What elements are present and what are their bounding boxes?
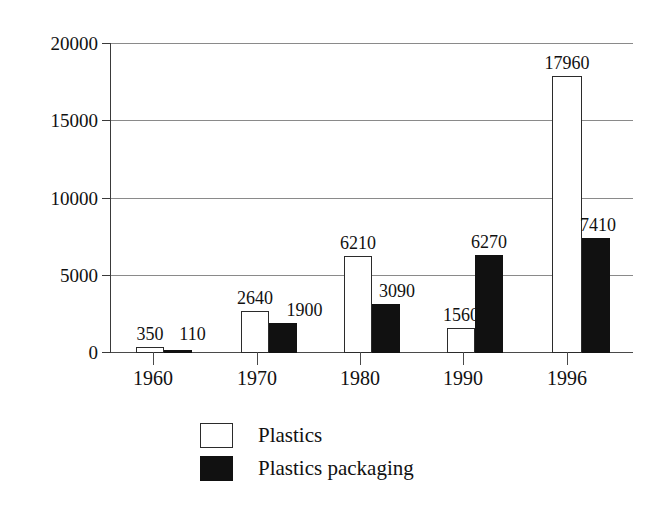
y-tick-label-5000: 5000: [0, 266, 98, 285]
bar-value-plastics-1996: 17960: [524, 54, 610, 72]
bar-plastics-1960: [136, 347, 164, 353]
y-tick-label-10000: 10000: [0, 189, 98, 208]
bar-value-plastics-1980: 6210: [328, 234, 388, 252]
bar-plastics-packaging-1960: [164, 350, 192, 353]
gridline-20000: [111, 43, 633, 44]
x-tick-label-1990: 1990: [423, 367, 503, 389]
bar-value-plastics-packaging-1960: 110: [150, 325, 235, 343]
y-tick-label-20000: 20000: [0, 34, 98, 53]
y-tick-label-0: 0: [0, 343, 98, 362]
y-tick-label-15000: 15000: [0, 111, 98, 130]
x-tick-mark-1960: [153, 352, 154, 365]
x-tick-mark-1980: [360, 352, 361, 365]
x-tick-label-1996: 1996: [527, 367, 607, 389]
y-tick-mark-5000: [102, 275, 111, 276]
bar-value-plastics-packaging-1990: 6270: [457, 233, 521, 251]
legend-label-plastics-packaging: Plastics packaging: [258, 454, 414, 482]
bar-plastics-packaging-1970: [269, 323, 297, 353]
bar-value-plastics-packaging-1970: 1900: [262, 301, 347, 319]
bar-value-plastics-packaging-1980: 3090: [365, 282, 429, 300]
x-tick-label-1960: 1960: [113, 367, 193, 389]
x-tick-mark-1970: [257, 352, 258, 365]
bar-plastics-1990: [447, 328, 475, 353]
legend-swatch-plastics: [200, 423, 233, 448]
y-tick-mark-10000: [102, 198, 111, 199]
legend-swatch-plastics-packaging: [200, 456, 233, 481]
x-tick-mark-1996: [567, 352, 568, 365]
bar-plastics-1980: [344, 256, 372, 353]
bar-value-plastics-packaging-1996: 7410: [566, 216, 630, 234]
y-tick-mark-15000: [102, 120, 111, 121]
bar-plastics-1996: [552, 76, 582, 353]
legend-label-plastics: Plastics: [258, 421, 322, 449]
y-tick-mark-20000: [102, 43, 111, 44]
bar-value-plastics-1990: 1560: [431, 306, 491, 324]
bar-plastics-packaging-1990: [475, 255, 503, 353]
bar-plastics-packaging-1980: [372, 304, 400, 353]
bar-chart: 20000 15000 10000 5000 0 350 110 2640 19…: [0, 0, 658, 508]
x-tick-mark-1990: [463, 352, 464, 365]
y-tick-mark-0: [102, 352, 111, 353]
x-tick-label-1980: 1980: [320, 367, 400, 389]
x-tick-label-1970: 1970: [217, 367, 297, 389]
bar-plastics-packaging-1996: [582, 238, 610, 353]
